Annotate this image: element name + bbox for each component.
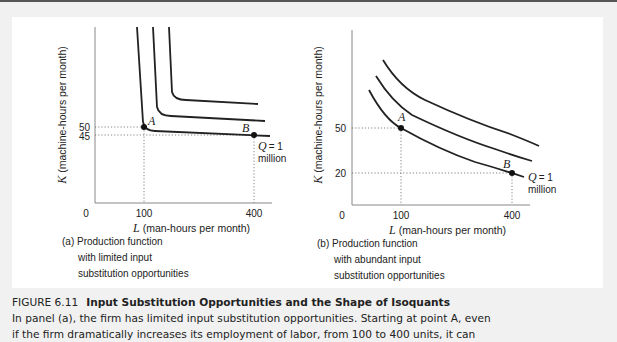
figure-title: Input Substitution Opportunities and the…: [86, 296, 450, 308]
panel-a-subtitle-2: with limited input: [77, 252, 152, 263]
panel-a-label-a: A: [147, 114, 156, 128]
panel-a-x-axis-label: L(man-hours per month): [132, 221, 250, 235]
caption-line-1: In panel (a), the firm has limited input…: [12, 310, 612, 326]
panel-a-label-b: B: [242, 121, 250, 135]
panel-b-xtick-400: 400: [504, 210, 521, 221]
panel-b-x-axis-label: L(man-hours per month): [388, 223, 506, 237]
panel-a-q-label: Q= 1: [258, 139, 283, 153]
panel-a-subtitle-3: substitution opportunities: [78, 268, 189, 279]
panel-a-q-label-million: million: [258, 153, 286, 164]
caption-heading: FIGURE 6.11Input Substitution Opportunit…: [12, 294, 612, 310]
panel-b-label-a: A: [397, 110, 406, 124]
panel-b-ytick-20: 20: [335, 168, 347, 179]
panel-b-subtitle-3: substitution opportunities: [334, 270, 445, 281]
caption-line-2: if the firm dramatically increases its e…: [12, 326, 612, 342]
panel-a-xtick-400: 400: [246, 208, 263, 219]
figure-svg: A B 50 45 0 100 400 Q= 1 million L(man-h…: [0, 0, 617, 342]
panel-b-label-b: B: [503, 157, 511, 171]
panel-a-point-a: [141, 124, 147, 130]
panel-a-subtitle-1: (a) Production function: [62, 236, 163, 247]
figure-number: FIGURE 6.11: [12, 296, 78, 308]
panel-a-point-b: [251, 132, 257, 138]
panel-b-point-a: [398, 125, 404, 131]
panel-b: A B 50 20 0 100 400 Q= 1 million L(man-h…: [311, 30, 556, 281]
panel-a-xtick-0: 0: [83, 208, 89, 219]
panel-b-isoquant-1: [369, 90, 524, 177]
panel-b-q-label: Q= 1: [528, 170, 553, 184]
panel-b-ytick-50: 50: [335, 123, 347, 134]
panel-b-subtitle-1: (b) Production function: [317, 238, 418, 249]
panel-a: A B 50 45 0 100 400 Q= 1 million L(man-h…: [55, 27, 286, 279]
panel-a-xtick-100: 100: [136, 208, 153, 219]
panel-a-y-axis-label: K(machine-hours per month): [55, 46, 69, 185]
panel-b-subtitle-2: with abundant input: [333, 254, 421, 265]
panel-b-isoquant-3: [383, 60, 539, 146]
panel-a-isoquant-3: [169, 27, 258, 104]
panel-a-ytick-45: 45: [79, 131, 91, 142]
panel-b-q-label-million: million: [528, 184, 556, 195]
panel-b-xtick-0: 0: [339, 210, 345, 221]
panel-b-y-axis-label: K(machine-hours per month): [311, 46, 325, 185]
figure-caption: FIGURE 6.11Input Substitution Opportunit…: [12, 294, 612, 342]
panel-b-xtick-100: 100: [393, 210, 410, 221]
